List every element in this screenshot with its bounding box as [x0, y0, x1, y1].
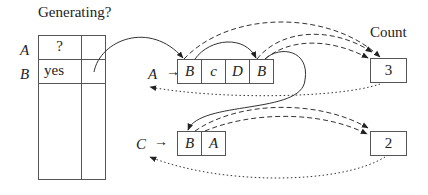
solid-arrow — [188, 52, 306, 130]
diagram-arrows — [0, 0, 428, 195]
dashed-arrow — [265, 43, 368, 59]
solid-arrow — [195, 42, 256, 59]
dashed-arrow — [205, 116, 367, 134]
dashed-arrow — [184, 22, 380, 59]
dotted-arrow — [150, 157, 385, 178]
solid-arrow — [94, 37, 183, 72]
dotted-arrow — [150, 84, 380, 96]
dashed-arrow — [195, 107, 368, 131]
dashed-arrow — [257, 34, 372, 59]
